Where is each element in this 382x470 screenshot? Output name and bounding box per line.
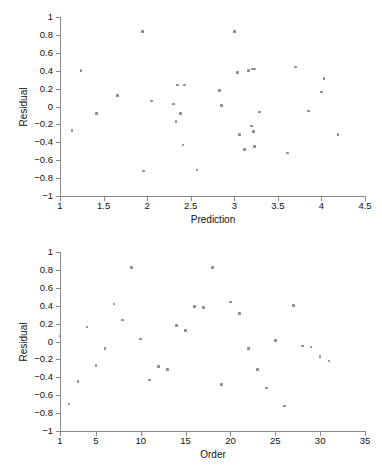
- x-tick-label: 4.5: [358, 201, 371, 211]
- scatter-point: [294, 66, 297, 69]
- scatter-point: [95, 364, 98, 367]
- x-tick-mark: [275, 432, 276, 436]
- scatter-point: [121, 319, 124, 322]
- y-tick-mark: [56, 252, 60, 253]
- scatter-point: [252, 130, 255, 133]
- scatter-point: [182, 144, 185, 147]
- y-tick-mark: [56, 53, 60, 54]
- scatter-point: [286, 152, 289, 155]
- scatter-point: [233, 30, 236, 33]
- y-tick-label: −0.8: [34, 408, 53, 418]
- scatter-point: [196, 169, 199, 172]
- y-tick-label: −0.6: [34, 390, 53, 400]
- residual-plots-figure: −1−0.8−0.6−0.4−0.200.20.40.60.81 11.522.…: [0, 0, 382, 470]
- scatter-point: [236, 71, 239, 74]
- scatter-point: [323, 77, 326, 80]
- x-axis-line-top: [60, 196, 366, 197]
- x-tick-mark: [141, 432, 142, 436]
- y-tick-label: 0.4: [40, 66, 53, 76]
- x-tick-label: 1.5: [97, 201, 110, 211]
- scatter-point: [319, 355, 322, 358]
- scatter-point: [320, 91, 323, 94]
- scatter-point: [184, 329, 187, 332]
- x-tick-mark: [234, 197, 235, 201]
- x-tick-label: 5: [93, 436, 98, 446]
- scatter-point: [68, 403, 71, 406]
- scatter-point: [220, 104, 223, 107]
- x-tick-mark: [191, 197, 192, 201]
- y-axis-title-holder-bottom: Residual: [30, 235, 31, 448]
- scatter-point: [139, 338, 142, 341]
- scatter-point: [86, 326, 89, 329]
- scatter-point: [238, 312, 241, 315]
- y-tick-mark: [56, 178, 60, 179]
- scatter-point: [229, 301, 232, 304]
- y-tick-mark: [56, 17, 60, 18]
- x-tick-mark: [60, 197, 61, 201]
- scatter-point: [77, 380, 80, 383]
- x-tick-mark: [321, 197, 322, 201]
- y-tick-mark: [56, 377, 60, 378]
- scatter-point: [202, 306, 205, 309]
- scatter-point: [218, 89, 221, 92]
- scatter-point: [141, 30, 144, 33]
- y-tick-mark: [56, 342, 60, 343]
- y-tick-label: 0.4: [40, 301, 53, 311]
- x-tick-mark: [278, 197, 279, 201]
- y-tick-mark: [56, 107, 60, 108]
- scatter-point: [176, 84, 179, 87]
- x-tick-label: 1: [57, 201, 62, 211]
- x-axis-title-top: Prediction: [60, 214, 366, 225]
- x-tick-mark: [365, 197, 366, 201]
- scatter-point: [150, 100, 153, 103]
- y-tick-mark: [56, 142, 60, 143]
- x-tick-label: 15: [180, 436, 191, 446]
- scatter-point: [310, 346, 313, 349]
- scatter-point: [274, 339, 277, 342]
- y-tick-label: 0.8: [40, 265, 53, 275]
- x-tick-label: 30: [315, 436, 326, 446]
- scatter-point: [307, 110, 310, 113]
- y-tick-label: 0: [48, 337, 53, 347]
- scatter-point: [328, 360, 331, 363]
- scatter-point: [116, 94, 119, 97]
- scatter-point: [243, 148, 246, 151]
- scatter-point: [157, 365, 160, 368]
- y-tick-label: −0.2: [34, 120, 53, 130]
- y-tick-label: 1: [48, 247, 53, 257]
- scatter-point: [104, 347, 107, 350]
- y-tick-mark: [56, 124, 60, 125]
- x-tick-label: 1: [57, 436, 62, 446]
- scatter-point: [95, 112, 98, 115]
- y-axis-title-holder-top: Residual: [30, 0, 31, 213]
- x-tick-mark: [96, 432, 97, 436]
- x-tick-mark: [147, 197, 148, 201]
- chart-panel-residual-vs-order: −1−0.8−0.6−0.4−0.200.20.40.60.81 1510152…: [0, 235, 382, 470]
- y-tick-mark: [56, 35, 60, 36]
- y-tick-mark: [56, 160, 60, 161]
- y-tick-mark: [56, 71, 60, 72]
- scatter-point: [183, 84, 186, 87]
- scatter-point: [258, 111, 261, 114]
- y-tick-label: −0.8: [34, 173, 53, 183]
- scatter-points-bottom: [60, 252, 365, 431]
- scatter-points-top: [60, 17, 365, 196]
- y-tick-mark: [56, 89, 60, 90]
- scatter-point: [166, 368, 169, 371]
- x-tick-label: 2.5: [184, 201, 197, 211]
- scatter-point: [247, 347, 250, 350]
- y-tick-mark: [56, 324, 60, 325]
- x-tick-label: 3.5: [271, 201, 284, 211]
- scatter-point: [179, 112, 182, 115]
- y-tick-mark: [56, 270, 60, 271]
- y-tick-mark: [56, 306, 60, 307]
- y-tick-label: 0: [48, 102, 53, 112]
- scatter-point: [211, 266, 214, 269]
- scatter-point: [337, 133, 340, 136]
- scatter-point: [175, 120, 178, 123]
- y-tick-label: −1: [42, 191, 53, 201]
- y-tick-label: −0.6: [34, 155, 53, 165]
- y-tick-label: 0.2: [40, 84, 53, 94]
- y-axis-title-bottom: Residual: [18, 322, 29, 361]
- x-tick-mark: [60, 432, 61, 436]
